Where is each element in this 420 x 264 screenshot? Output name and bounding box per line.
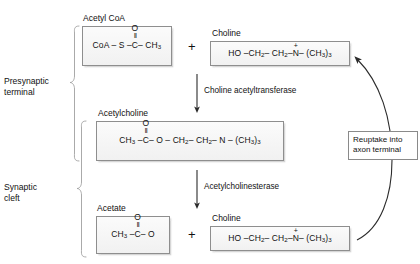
ach-left: CH <box>119 135 131 145</box>
choline-top-nitrogen: N <box>293 48 299 58</box>
acetate-left: CH <box>111 229 123 239</box>
choline-top-positive-charge: + <box>294 42 298 49</box>
acetate-carbonyl: O‖C <box>135 230 141 239</box>
acetyl-coa-right: – CH <box>138 40 158 50</box>
acetyl-coa-double-bond: ‖ <box>134 32 136 40</box>
plus-sign-top: + <box>188 40 196 53</box>
choline-bottom-nitrogen: N <box>293 233 299 243</box>
choline-bottom-seg4: – (CH <box>299 233 322 243</box>
caption-acetyl-coa: Acetyl CoA <box>83 13 125 23</box>
molecule-box-acetyl-coa: CoA – S –O‖C– CH3 <box>82 26 172 66</box>
region-label-synaptic-cleft: Synaptic cleft <box>4 182 37 203</box>
callout-line2: axon terminal <box>353 145 413 155</box>
formula-acetylcholine: CH3 –O‖C– O – CH2– CH2– N – (CH3)3 <box>119 136 260 146</box>
presynaptic-label-line2: terminal <box>4 87 49 98</box>
formula-choline-top: HO –CH2– CH2–+N– (CH3)3 <box>228 49 331 59</box>
acetate-right: – O <box>141 229 155 239</box>
formula-acetate: CH3 –O‖C– O <box>111 230 155 240</box>
ach-seg-a: – O – CH <box>149 135 185 145</box>
region-label-presynaptic-terminal: Presynaptic terminal <box>4 76 49 97</box>
molecule-box-choline-bottom: HO –CH2– CH2–+N– (CH3)3 <box>210 226 350 251</box>
caption-acetate: Acetate <box>97 203 126 213</box>
acetyl-coa-carbonyl: O‖C <box>132 41 138 50</box>
ach-carbonyl: O‖C <box>143 136 149 145</box>
caption-choline-bottom: Choline <box>212 213 241 223</box>
choline-top-nitrogen-group: +N <box>293 49 299 58</box>
molecule-box-acetylcholine: CH3 –O‖C– O – CH2– CH2– N – (CH3)3 <box>96 121 284 161</box>
acetyl-coa-right-sub: 3 <box>158 43 162 50</box>
synaptic-label-line2: cleft <box>4 193 37 204</box>
callout-reuptake-into-axon-terminal: Reuptake into axon terminal <box>348 131 418 160</box>
choline-bottom-nitrogen-group: +N <box>293 234 299 243</box>
choline-bottom-positive-charge: + <box>294 227 298 234</box>
choline-bottom-seg2: – CH <box>265 233 285 243</box>
callout-line1: Reuptake into <box>353 135 413 145</box>
diagram-canvas: Presynaptic terminal Synaptic cleft Acet… <box>0 0 420 264</box>
synaptic-label-line1: Synaptic <box>4 182 37 193</box>
choline-top-seg1: HO –CH <box>228 48 261 58</box>
acetate-carbon: C <box>135 229 141 239</box>
ach-seg-c: – N – (CH <box>212 135 251 145</box>
ach-left2: – <box>135 135 142 145</box>
molecule-box-acetate: CH3 –O‖C– O <box>96 216 170 254</box>
presynaptic-label-line1: Presynaptic <box>4 76 49 87</box>
choline-top-seg2: – CH <box>265 48 285 58</box>
formula-acetyl-coa: CoA – S –O‖C– CH3 <box>93 41 162 51</box>
ach-double-bond: ‖ <box>145 127 147 135</box>
choline-bottom-seg5-sub: 3 <box>328 236 332 243</box>
acetyl-coa-left: CoA – S – <box>93 40 132 50</box>
ach-seg-b: – CH <box>189 135 209 145</box>
formula-choline-bottom: HO –CH2– CH2–+N– (CH3)3 <box>228 234 331 244</box>
acetyl-coa-carbon: C <box>132 40 138 50</box>
acetate-double-bond: ‖ <box>137 221 139 229</box>
choline-top-seg4: – (CH <box>299 48 322 58</box>
bracket-synaptic-cleft <box>77 121 86 257</box>
choline-bottom-seg1: HO –CH <box>228 233 261 243</box>
caption-choline-top: Choline <box>212 28 241 38</box>
enzyme-label-choline-acetyltransferase: Choline acetyltransferase <box>204 86 296 95</box>
ach-carbon: C <box>143 135 149 145</box>
ach-seg-d-sub: 3 <box>257 138 261 145</box>
choline-top-seg5-sub: 3 <box>328 51 332 58</box>
caption-acetylcholine: Acetylcholine <box>98 108 148 118</box>
plus-sign-bottom: + <box>188 228 196 241</box>
bracket-presynaptic-terminal <box>70 26 79 161</box>
molecule-box-choline-top: HO –CH2– CH2–+N– (CH3)3 <box>210 41 350 66</box>
acetate-left2: – <box>127 229 134 239</box>
enzyme-label-acetylcholinesterase: Acetylcholinesterase <box>204 182 279 191</box>
